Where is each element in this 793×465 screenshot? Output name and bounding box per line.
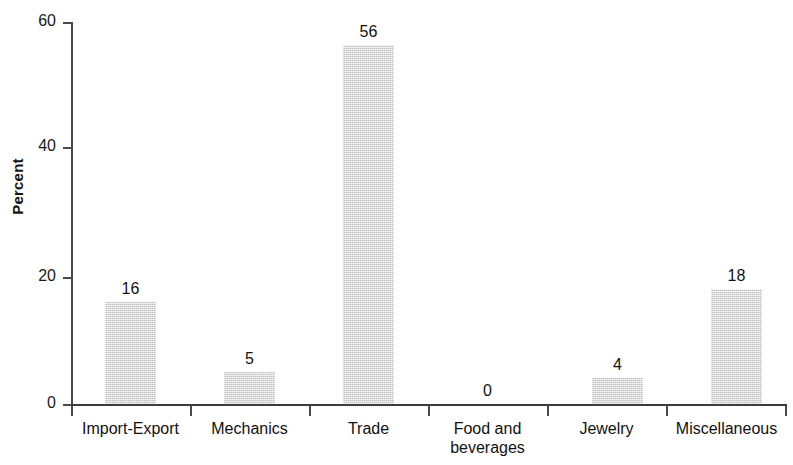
x-axis-label-food-and-beverages-line1: Food and bbox=[454, 420, 522, 437]
y-axis-label-20: 20 bbox=[38, 267, 56, 285]
x-axis-tick-6 bbox=[785, 406, 787, 416]
x-axis-tick-3 bbox=[428, 406, 430, 416]
bar-value-jewelry: 4 bbox=[592, 356, 643, 374]
bar-jewelry bbox=[592, 378, 643, 404]
x-axis-tick-2 bbox=[309, 406, 311, 416]
x-axis-tick-5 bbox=[666, 406, 668, 416]
y-axis-label-60: 60 bbox=[38, 12, 56, 30]
y-axis-line bbox=[71, 22, 73, 406]
bar-value-import-export: 16 bbox=[105, 280, 156, 298]
x-axis-label-miscellaneous-line1: Miscellaneous bbox=[676, 420, 777, 437]
x-axis-label-food-and-beverages: Food and beverages bbox=[423, 419, 552, 457]
x-axis-label-mechanics-line1: Mechanics bbox=[211, 420, 287, 437]
bar-import-export bbox=[105, 302, 156, 404]
bar-value-miscellaneous: 18 bbox=[711, 267, 762, 285]
x-axis-label-jewelry-line1: Jewelry bbox=[579, 420, 633, 437]
y-axis-title: Percent bbox=[9, 147, 26, 227]
x-axis-label-food-and-beverages-line2: beverages bbox=[423, 438, 552, 457]
y-axis-label-0: 0 bbox=[47, 394, 56, 412]
x-axis-label-mechanics: Mechanics bbox=[185, 419, 314, 438]
x-axis-tick-1 bbox=[190, 406, 192, 416]
bar-value-mechanics: 5 bbox=[224, 350, 275, 368]
bar-value-food-and-beverages: 0 bbox=[462, 382, 513, 400]
bar-trade bbox=[343, 45, 394, 404]
x-axis-label-trade: Trade bbox=[304, 419, 433, 438]
y-axis-tick-60 bbox=[63, 22, 72, 24]
y-axis-tick-20 bbox=[63, 277, 72, 279]
x-axis-tick-0 bbox=[71, 406, 73, 416]
x-axis-label-jewelry: Jewelry bbox=[542, 419, 671, 438]
x-axis-tick-4 bbox=[547, 406, 549, 416]
x-axis-label-import-export-line1: Import-Export bbox=[82, 420, 179, 437]
y-axis-label-40: 40 bbox=[38, 137, 56, 155]
x-axis-label-import-export: Import-Export bbox=[66, 419, 195, 438]
bar-mechanics bbox=[224, 372, 275, 404]
bar-miscellaneous bbox=[711, 289, 762, 404]
y-axis-tick-40 bbox=[63, 147, 72, 149]
x-axis-label-miscellaneous: Miscellaneous bbox=[661, 419, 792, 438]
bar-chart: Percent 60 40 20 0 16 5 56 0 4 18 Import… bbox=[0, 0, 793, 465]
bar-value-trade: 56 bbox=[343, 23, 394, 41]
x-axis-label-trade-line1: Trade bbox=[348, 420, 389, 437]
